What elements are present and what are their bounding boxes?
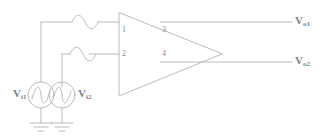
output-1-label: Vo1 [295, 15, 310, 26]
amplifier-triangle [119, 13, 222, 96]
source-1-label: Vi1 [13, 88, 26, 99]
output-2-symbol: V [295, 54, 303, 66]
source-2-subscript: i2 [86, 93, 91, 101]
source-2-label: Vi2 [78, 88, 91, 99]
source-2-symbol: V [78, 87, 86, 99]
output-1-subscript: o1 [303, 20, 310, 28]
sine-marker-1-icon [72, 15, 98, 29]
pin-3-number: 3 [162, 26, 166, 34]
circuit-diagram-canvas: 1 2 3 4 Vo1 Vo2 Vi1 Vi2 [0, 0, 320, 140]
pin-4-number: 4 [162, 50, 166, 58]
pin-2-number: 2 [122, 50, 126, 58]
source-2-sine-icon [53, 87, 71, 103]
output-2-label: Vo2 [295, 55, 310, 66]
output-2-subscript: o2 [303, 60, 310, 68]
source-1-subscript: i1 [21, 93, 26, 101]
schematic-svg [0, 0, 320, 140]
source-1-symbol: V [13, 87, 21, 99]
source-1-sine-icon [32, 87, 50, 103]
output-1-symbol: V [295, 14, 303, 26]
pin-1-number: 1 [122, 26, 126, 34]
